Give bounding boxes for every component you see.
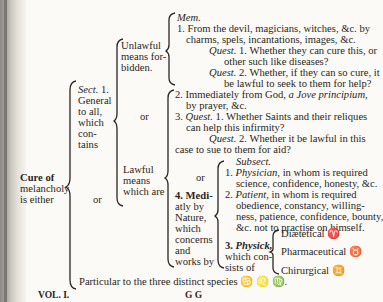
general-label-line6: tains <box>78 139 98 151</box>
physick-brace <box>270 229 280 275</box>
volume-label: VOL. I. <box>38 290 69 302</box>
or-connector-3: or <box>196 172 205 184</box>
or-connector-2: or <box>140 111 149 123</box>
root-brace <box>66 80 78 290</box>
binding-edge <box>4 0 7 302</box>
unlawful-brace <box>166 12 176 86</box>
signature-mark: G G <box>185 290 202 302</box>
lawful-item3-q2-line2: case to sue to them for aid? <box>175 144 291 156</box>
physick-item-pharmaceutical: Pharmaceutical ♉ <box>281 246 362 258</box>
lawful-label-line3: which are <box>123 186 164 198</box>
lawful-brace <box>165 89 175 269</box>
unlawful-label-line3: bidden. <box>121 62 152 74</box>
physick-item-chirurgical: Chirurgical ♊ <box>281 265 345 277</box>
item4-label-line7: works by <box>175 256 214 268</box>
item4-brace <box>215 160 225 270</box>
root-label-line3: is either <box>20 194 54 206</box>
or-connector-1: or <box>93 194 102 206</box>
particular-species-line: Particular to the three distinct species… <box>79 276 287 288</box>
physick-line3: sists of <box>225 262 255 274</box>
physick-item-diaetetical: Diætetical ♈ <box>281 228 340 240</box>
